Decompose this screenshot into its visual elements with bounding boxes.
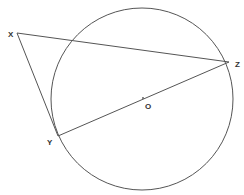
- center-point: [142, 97, 144, 99]
- point-label-y: Y: [47, 138, 53, 147]
- segment-yz-diameter: [58, 62, 229, 136]
- segment-xz: [17, 33, 229, 62]
- circle: [51, 8, 233, 190]
- point-label-x: X: [8, 30, 14, 39]
- geometry-diagram: X Y Z O: [0, 0, 244, 195]
- point-label-z: Z: [235, 60, 240, 69]
- point-label-o: O: [145, 102, 151, 111]
